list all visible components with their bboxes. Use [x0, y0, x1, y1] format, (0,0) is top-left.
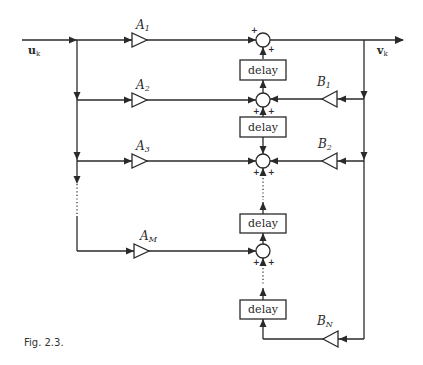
svg-text:A1: A1 [135, 18, 150, 33]
iir-filter-block-diagram: uk A1 A2 A3 AM + + [0, 0, 423, 365]
arrow-icon [248, 37, 256, 44]
gain-am: AM [77, 229, 256, 258]
svg-text:delay: delay [248, 121, 279, 134]
svg-text:+: + [268, 45, 275, 54]
output-signal-label: vk [376, 44, 388, 58]
gain-a3: A3 [77, 139, 256, 168]
figure-caption: Fig. 2.3. [24, 337, 64, 348]
delay-block-3: delay [240, 202, 286, 244]
arrow-icon [74, 176, 81, 184]
svg-text:A2: A2 [135, 78, 150, 93]
svg-text:+: + [268, 168, 275, 177]
gain-a2: A2 [77, 78, 256, 107]
svg-text:+: + [268, 107, 275, 116]
delay-block-4: delay [240, 288, 286, 339]
arrow-icon [74, 92, 81, 100]
svg-text:AM: AM [139, 229, 158, 244]
svg-text:B1: B1 [316, 75, 331, 90]
svg-text:+: + [253, 107, 260, 116]
svg-text:delay: delay [248, 303, 279, 316]
svg-text:B2: B2 [317, 137, 332, 152]
output-line [270, 36, 404, 44]
svg-text:delay: delay [248, 64, 279, 77]
svg-text:+: + [253, 258, 260, 267]
arrow-icon [395, 36, 404, 44]
arrow-icon [124, 37, 132, 44]
summing-junction-m: + + [253, 244, 275, 286]
svg-text:+: + [268, 258, 275, 267]
input-signal-label: uk [28, 44, 41, 58]
delay-block-1: delay [240, 47, 286, 93]
diagram-svg: uk A1 A2 A3 AM + + [0, 0, 423, 365]
arrow-icon [69, 37, 77, 44]
arrow-icon [74, 152, 81, 160]
right-bus [361, 40, 368, 339]
svg-text:+: + [251, 26, 258, 35]
gain-b2: B2 [270, 137, 364, 169]
delay-block-2: delay [240, 107, 286, 154]
svg-text:A3: A3 [135, 139, 150, 154]
gain-a1: A1 [132, 18, 150, 47]
left-bus [74, 40, 81, 251]
svg-text:BN: BN [316, 314, 334, 329]
svg-text:delay: delay [248, 217, 279, 230]
svg-text:+: + [253, 168, 260, 177]
